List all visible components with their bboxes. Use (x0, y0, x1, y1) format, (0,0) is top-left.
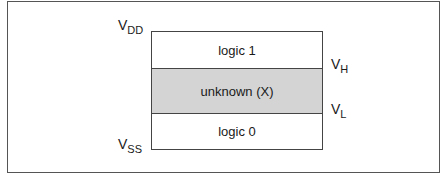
label-vss-main: V (118, 136, 127, 152)
voltage-range-box: logic 1 unknown (X) logic 0 (151, 31, 323, 150)
label-vl-sub: L (340, 108, 346, 120)
label-vdd-sub: DD (127, 24, 143, 36)
label-vh: VH (331, 56, 348, 75)
region-logic-0-label: logic 0 (218, 124, 256, 139)
label-vl: VL (331, 101, 346, 120)
region-logic-0: logic 0 (152, 114, 322, 149)
label-vdd: VDD (118, 17, 143, 36)
label-vss: VSS (118, 136, 142, 155)
region-logic-1: logic 1 (152, 32, 322, 68)
region-logic-1-label: logic 1 (218, 43, 256, 58)
label-vh-sub: H (340, 63, 348, 75)
region-unknown: unknown (X) (152, 68, 322, 114)
label-vh-main: V (331, 56, 340, 72)
label-vss-sub: SS (127, 143, 142, 155)
region-unknown-label: unknown (X) (201, 84, 274, 99)
label-vl-main: V (331, 101, 340, 117)
label-vdd-main: V (118, 17, 127, 33)
